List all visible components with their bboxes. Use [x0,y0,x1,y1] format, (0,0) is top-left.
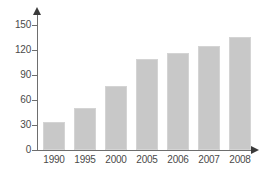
x-axis-line [37,150,253,151]
x-axis-arrow-icon [251,146,259,154]
bar-chart: 0 30 60 90 120 150 1990 1995 2000 2005 2… [0,0,267,175]
y-axis-label-90: 90 [1,70,31,80]
y-axis-label-150: 150 [1,20,31,30]
y-axis-label-60: 60 [1,95,31,105]
bar-2006 [167,53,189,150]
bar-2008 [229,37,251,150]
y-tick-30 [32,125,37,126]
y-tick-0 [32,150,37,151]
y-axis-line [37,14,38,151]
y-tick-150 [32,25,37,26]
bar-2000 [105,86,127,150]
bar-1990 [43,122,65,150]
plot-area: 0 30 60 90 120 150 1990 1995 2000 2005 2… [0,0,267,175]
y-axis-label-120: 120 [1,45,31,55]
y-tick-90 [32,75,37,76]
bar-2005 [136,59,158,150]
bar-1995 [74,108,96,151]
x-axis-label-2008: 2008 [220,155,260,165]
y-axis-label-0: 0 [1,145,31,155]
y-tick-120 [32,50,37,51]
y-axis-label-30: 30 [1,120,31,130]
bar-2007 [198,46,220,150]
y-tick-60 [32,100,37,101]
y-axis-arrow-icon [33,7,41,15]
